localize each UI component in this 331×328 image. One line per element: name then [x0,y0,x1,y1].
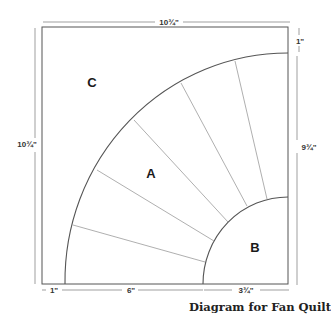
region-label-a: A [146,166,156,181]
bottom-middle-label: 6" [127,286,135,295]
fan-blade-dividers [73,61,267,262]
left-height-label: 10¾" [17,140,37,149]
bottom-left-label: 1" [50,286,58,295]
right-height-label: 9¾" [302,143,317,152]
diagram-caption: Diagram for Fan Quilt [189,300,331,314]
right-dimension-line [297,28,299,285]
bottom-right-label: 3¾" [239,286,254,295]
region-label-c: C [87,75,97,90]
inner-quarter-circle [203,197,288,284]
top-right-gap-label: 1" [296,37,304,46]
region-label-b: B [250,240,259,255]
top-width-label: 10¾" [159,18,179,27]
